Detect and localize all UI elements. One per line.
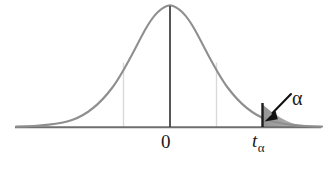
axis-label-critical-value: tα: [252, 131, 265, 154]
tail-area-label-alpha: α: [292, 88, 302, 108]
t-distribution-figure: 0 tα α: [0, 0, 325, 171]
critical-value-subscript: α: [258, 140, 265, 155]
critical-value-base: t: [252, 130, 257, 151]
axis-label-zero: 0: [161, 132, 171, 151]
